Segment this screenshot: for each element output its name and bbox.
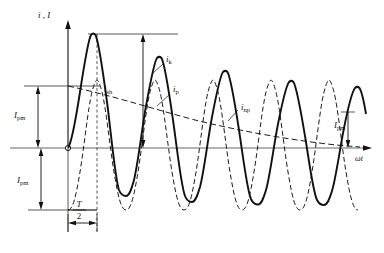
x-axis-arrowhead xyxy=(363,145,372,150)
labels-group: i , I ωt ish ik ip inp Ipm Ipm xyxy=(13,10,364,221)
ip-label: ip xyxy=(173,84,179,95)
inp-label-sub: np xyxy=(244,106,251,113)
ish-label-sub: sh xyxy=(107,88,114,95)
short-circuit-current-diagram: i , I ωt ish ik ip inp Ipm Ipm xyxy=(0,0,384,253)
ik-label: ik xyxy=(166,54,173,65)
half-period-numerator: T xyxy=(76,199,82,209)
Ipm-upper-dimension-arrow xyxy=(36,86,41,148)
half-period-label: T 2 xyxy=(73,199,86,221)
Ipm-upper-label: Ipm xyxy=(13,110,25,121)
y-axis-arrowhead xyxy=(65,20,71,29)
Ipm-lower-label: Ipm xyxy=(16,175,28,186)
half-period-denominator: 2 xyxy=(77,211,82,221)
ik-label-sub: k xyxy=(169,58,173,65)
Ipm-lower-dimension-arrow xyxy=(39,148,44,210)
y-axis-label: i , I xyxy=(38,10,51,20)
ip-leader-line xyxy=(157,94,170,106)
Ipm-upper-label-sub: pm xyxy=(17,114,25,121)
curve-ik-total xyxy=(68,34,366,206)
T2-dimension-arrow xyxy=(68,221,97,226)
ip-label-sub: p xyxy=(176,88,179,95)
inp-label: inp xyxy=(241,102,250,113)
ish-label: ish xyxy=(104,84,113,95)
Ipm-right-label-sub: pm xyxy=(337,124,345,131)
Ipm-lower-label-sub: pm xyxy=(20,179,28,186)
x-axis-label: ωt xyxy=(355,154,364,163)
y-axis-label-text: i , I xyxy=(38,10,51,20)
x-axis-label-text: ωt xyxy=(355,154,364,163)
